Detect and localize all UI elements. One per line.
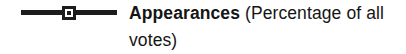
legend-square-marker-inner [65, 9, 73, 17]
legend-square-marker-dot-icon [67, 11, 71, 15]
legend-marker [21, 4, 117, 23]
legend-series-name: Appearances [129, 3, 240, 23]
chart-legend: Appearances (Percentage of all votes) [0, 0, 406, 54]
legend-square-marker-icon [62, 6, 76, 20]
legend-label: Appearances (Percentage of all votes) [129, 0, 406, 54]
